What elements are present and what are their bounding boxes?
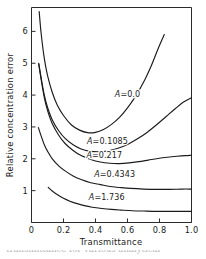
x-tick-label: 0 bbox=[29, 225, 34, 235]
caption-strip: transmittance for various analytical bbox=[0, 250, 206, 259]
y-axis-ticks bbox=[32, 31, 36, 190]
x-tick-label: 0.4 bbox=[89, 225, 103, 235]
data-curves bbox=[38, 12, 191, 212]
y-tick-label: 6 bbox=[23, 26, 28, 36]
y-tick-label: 5 bbox=[23, 58, 28, 68]
curve-0 bbox=[39, 12, 164, 133]
y-axis-tick-labels: 123456 bbox=[23, 26, 28, 195]
curve-label-0: A=0.0 bbox=[114, 90, 140, 99]
y-tick-label: 3 bbox=[23, 122, 28, 132]
curve-label-2: A=0.217 bbox=[85, 151, 122, 160]
x-tick-label: 0.2 bbox=[57, 225, 71, 235]
caption-text: transmittance for various analytical bbox=[6, 250, 160, 254]
curve-label-3: A=0.4343 bbox=[93, 170, 135, 179]
x-tick-label: 0.6 bbox=[121, 225, 135, 235]
curve-label-4: A=1.736 bbox=[88, 193, 125, 202]
y-tick-label: 1 bbox=[23, 186, 28, 196]
y-axis-title: Relative concentration error bbox=[5, 53, 15, 178]
x-tick-label: 1.0 bbox=[185, 225, 199, 235]
plot-canvas: 123456 00.20.40.60.81.0 A=0.0A=0.0A=0.10… bbox=[0, 0, 206, 259]
x-axis-ticks bbox=[32, 219, 192, 223]
x-axis-title: Transmittance bbox=[79, 237, 143, 247]
figure-container: 123456 00.20.40.60.81.0 A=0.0A=0.0A=0.10… bbox=[0, 0, 206, 259]
x-tick-label: 0.8 bbox=[153, 225, 167, 235]
curve-label-1: A=0.1085 bbox=[86, 137, 128, 146]
curve-annotations: A=0.0A=0.0A=0.1085A=0.1085A=0.217A=0.217… bbox=[85, 90, 140, 202]
y-tick-label: 4 bbox=[23, 90, 28, 100]
y-tick-label: 2 bbox=[23, 154, 28, 164]
x-axis-tick-labels: 00.20.40.60.81.0 bbox=[29, 225, 199, 235]
